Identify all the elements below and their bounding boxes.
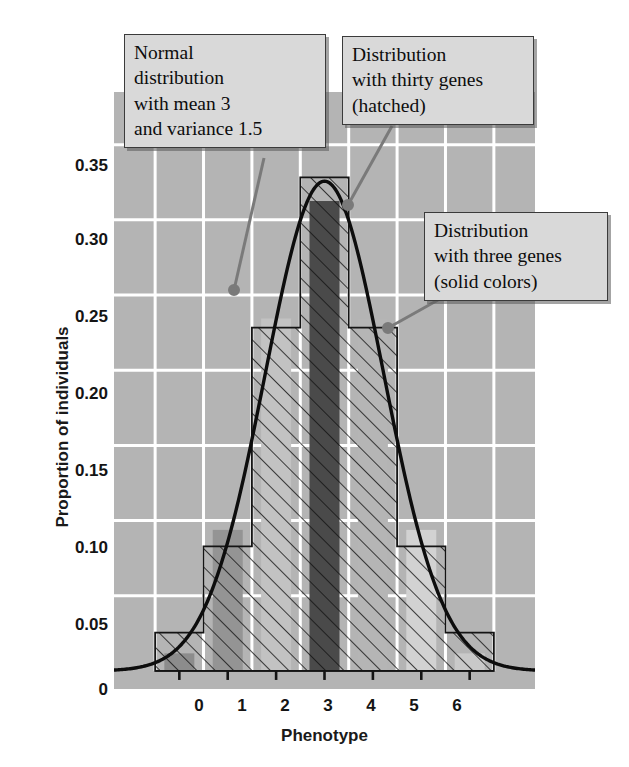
callout-normal-distribution: Normal distribution with mean 3 and vari… [124,34,326,148]
y-tick-label: 0.35 [38,157,108,174]
plot-area [114,92,535,689]
y-tick-label: 0.20 [38,385,108,402]
x-tick-label: 1 [222,697,262,714]
y-tick-label: 0.25 [38,308,108,325]
y-axis-tick-labels: 0.35 0.30 0.25 0.20 0.15 0.10 0.05 0 [30,0,108,767]
x-tick-marks-group [155,671,494,680]
x-tick-label: 5 [394,697,434,714]
y-tick-label: 0.30 [38,231,108,248]
figure-root: Proportion of individuals 0.35 0.30 0.25… [0,0,629,767]
y-tick-label: 0.15 [38,462,108,479]
plot-content [114,92,535,689]
x-axis-title: Phenotype [114,726,535,746]
y-tick-label: 0 [38,681,108,698]
callout-three-genes: Distribution with three genes (solid col… [424,212,608,301]
y-tick-label: 0.05 [38,616,108,633]
x-tick-label: 3 [308,697,348,714]
x-tick-label: 4 [351,697,391,714]
callout-thirty-genes: Distribution with thirty genes (hatched) [342,36,534,125]
y-tick-label: 0.10 [38,539,108,556]
x-tick-label: 6 [437,697,477,714]
x-tick-label: 2 [265,697,305,714]
x-tick-label: 0 [179,697,219,714]
